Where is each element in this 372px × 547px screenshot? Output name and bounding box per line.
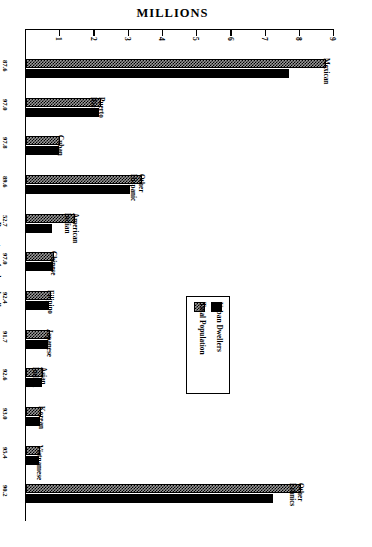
bar-total-population — [26, 59, 326, 68]
bar-group: Mexican — [26, 59, 333, 94]
axis-tick-label: 3 — [123, 37, 132, 41]
category-label: Filipino — [45, 290, 53, 314]
legend-label: Total Population — [198, 302, 207, 355]
category-label: Vietnamese — [35, 445, 43, 480]
axis-tick — [128, 29, 129, 36]
axis-tick — [230, 29, 231, 36]
percentage-annotation: 87.6 — [2, 60, 9, 72]
axis-tick-label: 5 — [191, 37, 200, 41]
bar-group: Japanese — [26, 330, 333, 365]
value-axis-title: MILLIONS — [0, 6, 345, 21]
category-label: American Indian — [63, 213, 78, 243]
axis-tick — [93, 29, 94, 36]
axis-tick-label: 6 — [226, 37, 235, 41]
bar-group: Vietnamese — [26, 446, 333, 481]
axis-tick — [299, 29, 300, 36]
percentage-annotation: 90.2 — [2, 485, 9, 497]
bar-group: Filipino — [26, 291, 333, 326]
percentage-annotation: 92.6 — [2, 369, 9, 381]
category-label: Korean — [36, 406, 44, 429]
percentage-annotation: 92.4 — [2, 292, 9, 304]
axis-tick — [59, 29, 60, 36]
axis-tick — [162, 29, 163, 36]
category-label: Other Hispanic — [129, 174, 144, 201]
plot-area: MexicanPuerto RicanCubanOther HispanicAm… — [26, 57, 333, 521]
legend-label: Urban Dwellers — [215, 302, 224, 352]
percentage-annotation: 97.0 — [2, 99, 9, 111]
value-axis-line — [25, 29, 333, 30]
chart-legend: Total PopulationUrban Dwellers — [186, 296, 230, 394]
axis-tick-label: 7 — [260, 37, 269, 41]
axis-tick — [265, 29, 266, 36]
category-label: Asian Indian — [30, 367, 45, 387]
category-label: Japanese — [45, 329, 53, 357]
bar-total-population — [26, 175, 142, 184]
bar-group: Other Hispanic — [26, 175, 333, 210]
bar-urban-dwellers — [26, 494, 273, 503]
bar-group: Asian Indian — [26, 368, 333, 403]
axis-tick-label: 4 — [157, 37, 166, 41]
percentage-annotation: 97.0 — [2, 253, 9, 265]
category-label: Chinese — [49, 251, 57, 275]
category-label: Cuban — [55, 135, 63, 156]
bar-urban-dwellers — [26, 69, 289, 78]
percentage-annotation: 89.6 — [2, 176, 9, 188]
bar-urban-dwellers — [26, 185, 130, 194]
bar-group: American Indian — [26, 214, 333, 249]
value-axis: 123456789 — [25, 29, 333, 57]
percentage-annotation: 93.0 — [2, 408, 9, 420]
percentage-annotation: 91.7 — [2, 331, 9, 343]
category-label: Mexican — [321, 58, 329, 84]
percentage-annotation: 95.4 — [2, 447, 9, 459]
bar-group: Chinese — [26, 252, 333, 287]
bar-urban-dwellers — [26, 224, 52, 233]
bar-urban-dwellers — [26, 146, 59, 155]
axis-tick — [333, 29, 334, 36]
bar-group: Other Ethnics — [26, 484, 333, 519]
bar-group: Korean — [26, 407, 333, 442]
percentage-annotation: 97.8 — [2, 137, 9, 149]
axis-tick-label: 8 — [294, 37, 303, 41]
bar-chart: MILLIONS 123456789 Percentage of urban d… — [0, 0, 345, 547]
bar-group: Puerto Rican — [26, 98, 333, 133]
category-label: Other Ethnics — [288, 483, 303, 506]
axis-tick-label: 1 — [54, 37, 63, 41]
axis-tick-label: 2 — [89, 37, 98, 41]
percentage-annotation: 52.7 — [2, 215, 9, 227]
category-label: Puerto Rican — [88, 97, 103, 118]
bar-group: Cuban — [26, 136, 333, 171]
axis-tick — [196, 29, 197, 36]
bar-total-population — [26, 484, 301, 493]
axis-tick-label: 9 — [328, 37, 337, 41]
